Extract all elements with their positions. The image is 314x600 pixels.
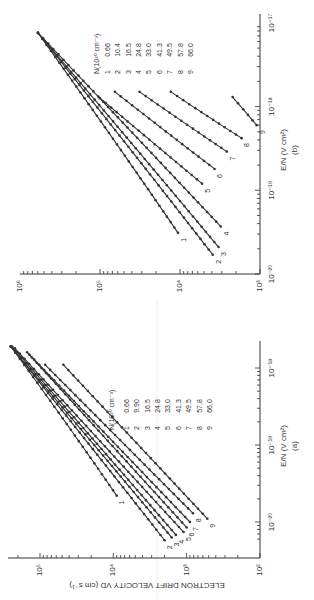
data-point xyxy=(111,445,114,448)
data-point xyxy=(200,225,203,228)
data-point xyxy=(62,58,65,61)
data-point xyxy=(88,438,91,441)
data-point xyxy=(52,48,55,51)
curve-label: 9 xyxy=(259,130,266,134)
data-point xyxy=(160,491,163,494)
data-point xyxy=(87,85,90,88)
legend-value: 57.8 xyxy=(177,43,184,57)
data-point xyxy=(118,134,121,137)
data-point xyxy=(89,457,92,460)
data-point xyxy=(149,173,152,176)
data-point xyxy=(170,536,173,539)
data-point xyxy=(108,450,111,453)
data-point xyxy=(229,130,232,133)
data-point xyxy=(116,450,119,453)
legend-id: 6 xyxy=(175,426,182,430)
data-point xyxy=(130,142,133,145)
data-point xyxy=(127,145,130,148)
data-point xyxy=(219,225,222,228)
data-point xyxy=(184,516,187,519)
data-point xyxy=(118,481,121,484)
curve-label: 2 xyxy=(215,260,222,264)
data-point xyxy=(102,434,105,437)
data-point xyxy=(90,430,93,433)
data-point xyxy=(139,177,142,180)
data-point xyxy=(79,428,82,431)
data-point xyxy=(44,364,47,367)
data-point xyxy=(163,539,166,542)
legend-id: 4 xyxy=(135,70,142,74)
data-point xyxy=(101,112,104,115)
curve-5 xyxy=(15,348,184,532)
data-point xyxy=(173,482,176,485)
data-point xyxy=(82,427,85,430)
data-point xyxy=(161,179,164,182)
data-point xyxy=(37,32,40,35)
legend-id: 8 xyxy=(196,426,203,430)
curve-label: 7 xyxy=(192,527,199,531)
data-point xyxy=(197,507,200,510)
data-point xyxy=(162,107,165,110)
data-point xyxy=(80,419,83,422)
data-point xyxy=(150,152,153,155)
data-point xyxy=(201,182,204,185)
data-point xyxy=(123,473,126,476)
data-point xyxy=(154,516,157,519)
data-point xyxy=(182,99,185,102)
y-tick-label: 10² xyxy=(255,564,264,576)
data-point xyxy=(121,131,124,134)
legend-id: 7 xyxy=(185,426,192,430)
data-point xyxy=(14,347,17,350)
data-point xyxy=(68,411,71,414)
data-point xyxy=(177,497,180,500)
data-point xyxy=(112,489,115,492)
legend-value: 41.3 xyxy=(156,43,163,57)
data-point xyxy=(109,458,112,461)
legend-id: 5 xyxy=(164,426,171,430)
data-point xyxy=(114,129,117,132)
data-point xyxy=(132,484,135,487)
data-point xyxy=(84,87,87,90)
data-point xyxy=(11,345,14,348)
data-point xyxy=(148,486,151,489)
data-point xyxy=(155,501,158,504)
data-point xyxy=(99,440,102,443)
data-point xyxy=(156,103,159,106)
data-point xyxy=(71,409,74,412)
curve-label: 1 xyxy=(180,238,187,242)
data-point xyxy=(178,487,181,490)
legend-value: 57.8 xyxy=(196,399,203,413)
data-point xyxy=(197,131,200,134)
data-point xyxy=(203,243,206,246)
data-point xyxy=(56,403,59,406)
data-point xyxy=(116,126,119,129)
data-point xyxy=(183,186,186,189)
data-point xyxy=(158,514,161,517)
data-point xyxy=(131,151,134,154)
data-point xyxy=(133,454,136,457)
legend-title: N(10²⁰ cm⁻³) xyxy=(93,34,101,74)
data-point xyxy=(112,111,115,114)
data-point xyxy=(87,390,90,393)
curve-label: 7 xyxy=(229,157,236,161)
data-point xyxy=(119,95,122,98)
data-point xyxy=(87,95,90,98)
data-point xyxy=(107,115,110,118)
data-point xyxy=(176,95,179,98)
data-point xyxy=(149,457,152,460)
data-point xyxy=(176,516,179,519)
x-tick-label: 10⁻¹⁸ xyxy=(267,359,276,378)
data-point xyxy=(91,437,94,440)
data-point xyxy=(203,159,206,162)
x-tick-label: 10⁻¹⁷ xyxy=(267,14,276,33)
data-point xyxy=(155,486,158,489)
data-point xyxy=(137,129,140,132)
curve-label: 5 xyxy=(185,537,192,541)
data-point xyxy=(132,491,135,494)
data-point xyxy=(164,130,167,133)
data-point xyxy=(170,134,173,137)
data-point xyxy=(153,143,156,146)
data-point xyxy=(192,512,195,515)
data-point xyxy=(140,162,143,165)
legend-id: 3 xyxy=(125,70,132,74)
